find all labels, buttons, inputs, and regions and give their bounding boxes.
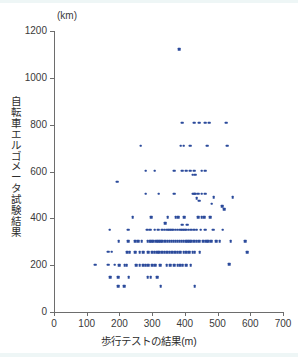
data-point [195,228,198,231]
data-point [222,228,225,231]
data-point [204,121,207,124]
data-point [189,144,192,147]
y-tick-mark [50,125,54,126]
x-tick-mark [283,312,284,316]
data-point [204,192,207,195]
data-point [246,251,249,254]
data-point [203,216,206,219]
data-point [157,228,160,231]
data-point [165,264,168,267]
data-point [218,240,221,243]
data-point [153,169,156,172]
data-point [186,224,189,227]
y-tick-mark [50,172,54,173]
x-tick-mark [152,312,153,316]
data-point [210,203,213,206]
data-point [150,216,153,219]
data-point [226,144,229,147]
data-point [169,264,172,267]
page-top-edge [0,0,298,3]
data-point [173,192,176,195]
x-tick-mark [185,312,186,316]
x-tick-mark [54,312,55,316]
data-point [197,192,200,195]
data-point [223,208,226,211]
data-point [204,228,207,231]
x-tick-label: 100 [78,319,95,329]
data-point [208,121,211,124]
data-point [228,263,231,266]
data-point [202,240,205,243]
data-point [151,264,154,267]
data-point [182,144,185,147]
data-point [194,173,197,176]
x-tick-label: 300 [144,319,161,329]
data-point [144,169,147,172]
data-point [212,196,215,199]
data-point [225,121,228,124]
x-axis-line [54,312,283,313]
data-point [129,251,132,254]
y-tick-mark [50,78,54,79]
x-tick-label: 0 [51,319,57,329]
data-point [161,240,164,243]
data-point [159,285,162,288]
data-point [150,276,153,279]
data-point [173,264,176,267]
data-point [182,264,185,267]
x-tick-label: 200 [111,319,128,329]
data-point [140,240,143,243]
data-point [137,240,140,243]
data-point [210,240,213,243]
x-tick-label: 700 [275,319,292,329]
data-point [156,276,159,279]
data-point [198,121,201,124]
data-point [193,169,196,172]
y-tick-label: 400 [30,213,47,223]
x-tick-mark [87,312,88,316]
y-tick-label: 0 [41,307,47,317]
y-tick-label: 1000 [25,73,47,83]
data-point [185,251,188,254]
y-axis-title: 自転車エルゴメータ試験結果 [8,96,23,238]
data-point [189,264,192,267]
data-point [212,228,215,231]
x-tick-label: 600 [242,319,259,329]
data-point [135,264,138,267]
data-point [178,48,181,51]
data-point [198,240,201,243]
data-point [244,240,247,243]
data-point [107,263,110,266]
data-point [147,251,150,254]
data-point [159,264,162,267]
data-point [199,228,202,231]
data-point [215,240,218,243]
data-point [173,169,176,172]
data-point [201,192,204,195]
data-point [127,228,130,231]
scatter-plot-figure: (km) 自転車エルゴメータ試験結果 020040060080010001200… [0,0,298,357]
data-point [209,216,212,219]
data-point [177,216,180,219]
data-point [146,276,149,279]
data-point [127,276,130,279]
x-tick-label: 500 [209,319,226,329]
data-point [185,264,188,267]
x-tick-label: 400 [177,319,194,329]
data-point [116,180,119,183]
data-point [179,251,182,254]
data-point [154,264,157,267]
data-point [107,250,110,253]
data-point [206,144,209,147]
data-point [117,285,120,288]
data-point [118,264,121,267]
data-point [138,251,141,254]
y-axis-unit-label: (km) [57,11,77,21]
data-point [146,228,149,231]
data-point [147,264,150,267]
data-point [123,285,126,288]
data-point [138,264,141,267]
x-axis-title: 歩行テストの結果(m) [0,336,298,347]
data-point [201,169,204,172]
data-point [231,196,234,199]
